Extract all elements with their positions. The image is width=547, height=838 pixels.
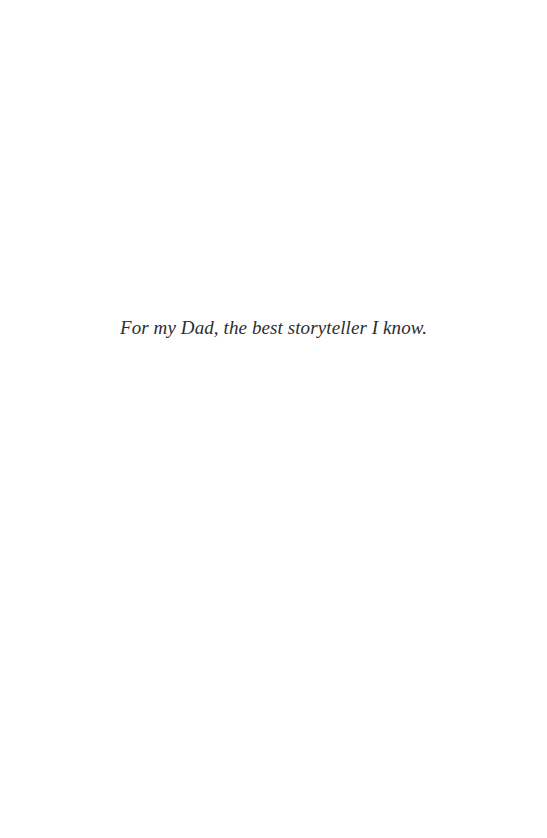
dedication-text: For my Dad, the best storyteller I know. xyxy=(0,316,547,340)
book-page: For my Dad, the best storyteller I know. xyxy=(0,0,547,838)
